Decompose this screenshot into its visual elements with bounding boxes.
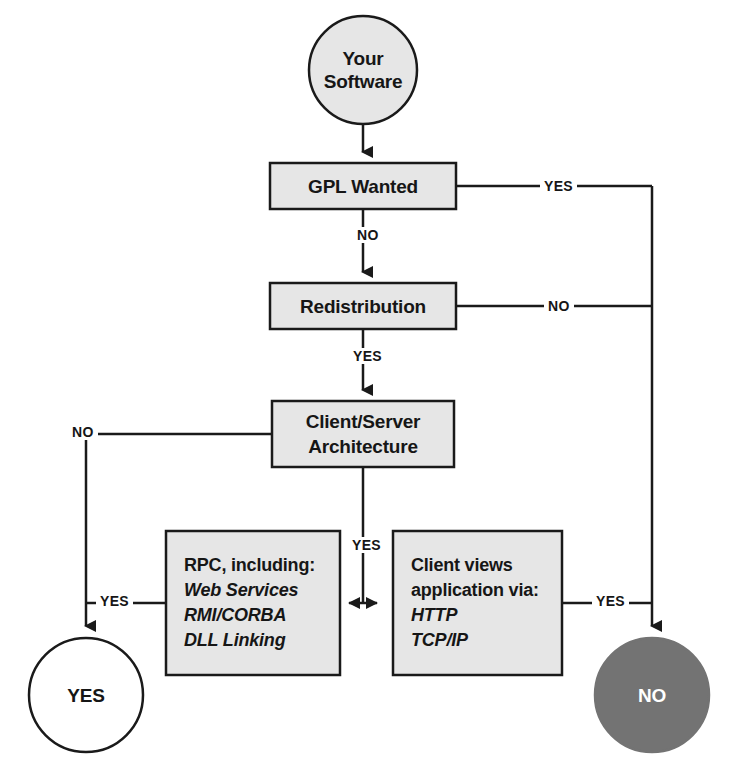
edge-label-client-views-yes: YES — [592, 593, 629, 609]
flowchart-vector-layer — [0, 0, 730, 777]
node-redistribution — [270, 283, 456, 329]
flowchart-canvas: Your Software GPL Wanted Redistribution … — [0, 0, 730, 777]
edge-label-gpl-yes: YES — [540, 178, 577, 194]
node-client-server-architecture — [272, 401, 454, 467]
node-terminal-no — [595, 638, 709, 752]
edge-label-gpl-no: NO — [353, 227, 383, 243]
edge-label-client-server-yes: YES — [348, 537, 385, 553]
edge-label-client-server-no: NO — [68, 424, 98, 440]
node-gpl-wanted — [270, 163, 456, 209]
node-rpc-box — [166, 531, 340, 675]
node-client-views-box — [393, 531, 562, 675]
edge-label-redistribution-yes: YES — [349, 348, 386, 364]
node-terminal-yes — [29, 638, 143, 752]
edge-label-rpc-yes: YES — [96, 593, 133, 609]
node-your-software — [309, 16, 417, 124]
edge-label-redistribution-no: NO — [544, 298, 574, 314]
